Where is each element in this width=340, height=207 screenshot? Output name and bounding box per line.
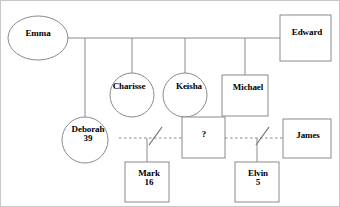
- node-emma[interactable]: [8, 16, 68, 60]
- node-unknown[interactable]: [182, 117, 225, 158]
- genogram-canvas-svg: [1, 1, 340, 207]
- separation-slash-unknown-james: [256, 127, 269, 145]
- node-edward[interactable]: [280, 15, 331, 61]
- genogram-diagram: Emma Edward Charisse Keisha Michael Debo…: [0, 0, 340, 207]
- separation-slash-deborah-unknown: [149, 127, 162, 145]
- node-charisse[interactable]: [110, 73, 154, 117]
- node-mark[interactable]: [125, 162, 169, 202]
- node-elvin[interactable]: [235, 162, 279, 202]
- node-deborah[interactable]: [62, 117, 108, 163]
- node-james[interactable]: [283, 119, 331, 158]
- node-michael[interactable]: [222, 75, 268, 116]
- node-keisha[interactable]: [163, 73, 207, 117]
